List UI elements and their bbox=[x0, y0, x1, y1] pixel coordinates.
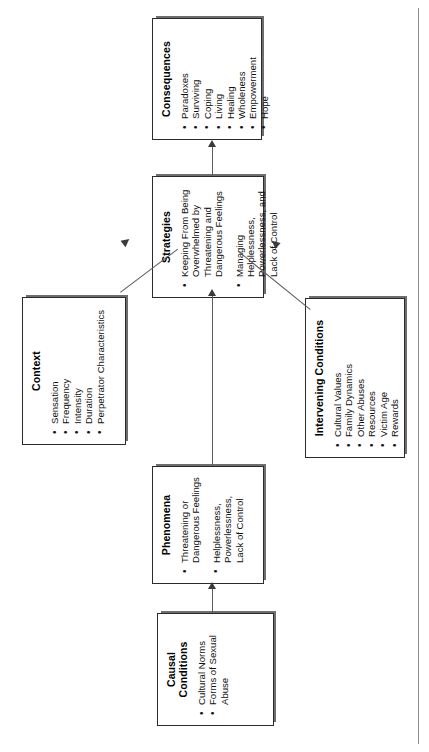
list-item: Intensity bbox=[72, 307, 83, 435]
connector-strategies-to-consequences bbox=[212, 146, 213, 176]
node-title-phenomena: Phenomena bbox=[160, 476, 172, 574]
list-item: Perpetrator Characteristics bbox=[95, 307, 106, 435]
arrow-head-context-to-strategies bbox=[121, 236, 132, 247]
list-item: Healing bbox=[225, 28, 236, 130]
node-items-consequences: Paradoxes Surviving Coping Living Healin… bbox=[179, 28, 270, 130]
list-item: Coping bbox=[202, 28, 213, 130]
list-item: Frequency bbox=[60, 307, 71, 435]
node-title-causal-conditions: Causal Conditions bbox=[165, 623, 189, 716]
list-item: Rewards bbox=[389, 308, 400, 448]
arrow-head-causal-to-phenomena bbox=[208, 582, 216, 589]
connector-phenomena-to-strategies bbox=[212, 295, 213, 466]
list-item: Surviving bbox=[190, 28, 201, 130]
node-title-intervening-conditions: Intervening Conditions bbox=[313, 308, 325, 448]
list-item: Helplessness, Powerlessness, Lack of Con… bbox=[211, 476, 245, 574]
list-item: Threatening or Dangerous Feelings bbox=[179, 476, 202, 574]
list-item: Keeping From Being Overwhelmed by Threat… bbox=[179, 186, 225, 288]
list-item: Cultural Norms bbox=[196, 623, 207, 716]
arrow-head-strategies-to-consequences bbox=[208, 140, 216, 147]
node-items-intervening-conditions: Cultural Values Family Dynamics Other Ab… bbox=[332, 308, 400, 448]
diagram-canvas: Consequences Paradoxes Surviving Coping … bbox=[0, 0, 429, 752]
list-item: Other Abuses bbox=[355, 308, 366, 448]
list-item: Sensation bbox=[49, 307, 60, 435]
node-title-strategies: Strategies bbox=[160, 186, 172, 288]
list-item: Family Dynamics bbox=[343, 308, 354, 448]
list-item: Forms of Sexual Abuse bbox=[207, 623, 230, 716]
connector-causal-to-phenomena bbox=[212, 588, 213, 613]
list-item: Managing Helplessness, Powerlessness, an… bbox=[234, 186, 280, 288]
list-item: Resources bbox=[366, 308, 377, 448]
list-item: Living bbox=[213, 28, 224, 130]
node-title-consequences: Consequences bbox=[160, 28, 172, 130]
page-edge-line bbox=[418, 8, 419, 744]
node-items-causal-conditions: Cultural Norms Forms of Sexual Abuse bbox=[196, 623, 230, 716]
list-item: Hope bbox=[259, 28, 270, 130]
node-items-phenomena: Threatening or Dangerous Feelings Helple… bbox=[179, 476, 245, 574]
list-item: Empowerment bbox=[247, 28, 258, 130]
list-item: Cultural Values bbox=[332, 308, 343, 448]
list-item: Duration bbox=[83, 307, 94, 435]
node-title-context: Context bbox=[30, 307, 42, 435]
list-item: Victim Age bbox=[378, 308, 389, 448]
list-item: Paradoxes bbox=[179, 28, 190, 130]
arrow-head-phenomena-to-strategies bbox=[208, 289, 216, 296]
node-items-context: Sensation Frequency Intensity Duration P… bbox=[49, 307, 106, 435]
list-item: Wholeness bbox=[236, 28, 247, 130]
